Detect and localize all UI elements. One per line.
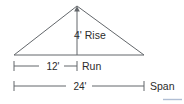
run-name-label: Run: [82, 60, 101, 72]
span-name-label: Span: [150, 80, 175, 92]
rise-label: 4' Rise: [74, 29, 106, 41]
roof-geometry-diagram: 4' Rise 12' Run 24' Span: [0, 0, 184, 104]
span-value-label: 24': [73, 81, 86, 92]
run-value-label: 12': [46, 61, 59, 72]
roof-diagram-svg: 4' Rise 12' Run 24' Span: [0, 0, 184, 104]
left-rafter-line: [14, 6, 77, 55]
